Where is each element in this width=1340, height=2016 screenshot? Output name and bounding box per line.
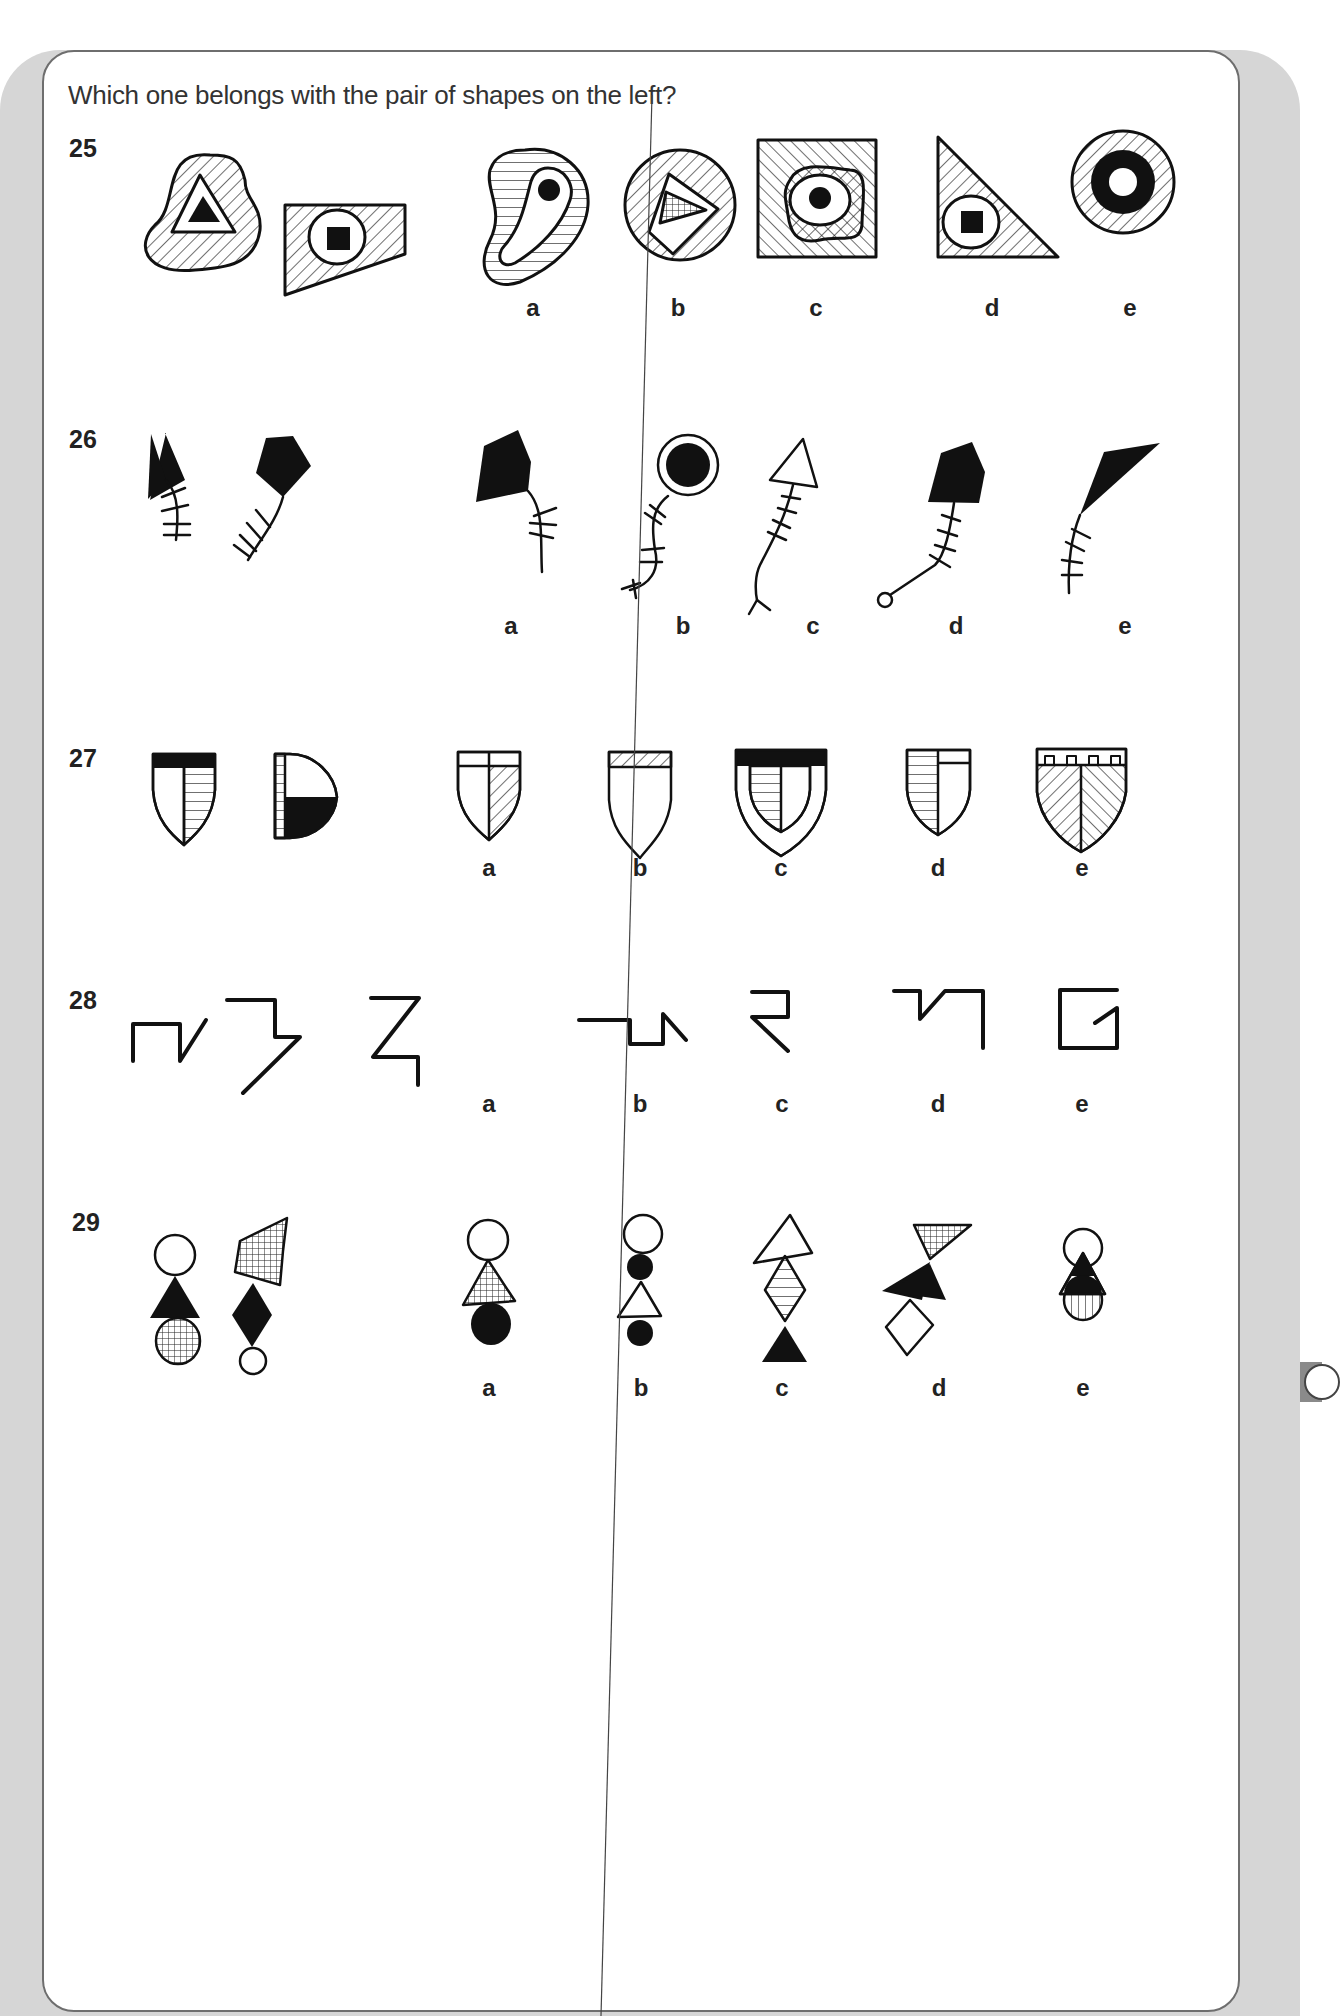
q25-option-a-figure — [484, 149, 588, 284]
q27-pair-d-shape — [275, 754, 337, 838]
q27-option-b-figure — [609, 752, 671, 858]
q29-option-a-figure — [463, 1220, 515, 1345]
q29-option-c-figure — [754, 1215, 812, 1362]
q26-option-b-figure — [622, 435, 718, 598]
q29-pair-figure-1 — [150, 1235, 200, 1364]
q26-pair-triangle — [148, 433, 190, 540]
q26-pair-pentagon — [234, 436, 311, 560]
q28-pair-figure-2 — [227, 1000, 300, 1093]
q25-option-b-figure — [625, 150, 735, 260]
q27-option-e-figure — [1037, 749, 1126, 852]
q26-option-d-figure — [878, 442, 985, 607]
q26-option-c-figure — [749, 439, 817, 614]
q25-option-c-figure — [758, 140, 876, 257]
q27-option-d-figure — [907, 750, 970, 835]
q25-option-e-figure — [1072, 131, 1174, 233]
q28-option-d-figure — [894, 991, 983, 1048]
q25-pair-trapezoid — [285, 205, 405, 295]
q27-option-a-figure — [458, 752, 520, 840]
q28-option-a-figure — [371, 998, 419, 1085]
q25-option-d-figure — [938, 137, 1058, 257]
q26-option-e-figure — [1062, 443, 1160, 593]
scan-artifact-line — [601, 95, 652, 2016]
q29-option-e-figure — [1060, 1229, 1105, 1320]
q28-pair-figure-1 — [133, 1020, 206, 1061]
q29-option-d-figure — [882, 1225, 971, 1355]
q29-option-b-figure — [618, 1215, 662, 1346]
q28-option-e-figure — [1060, 990, 1117, 1048]
q27-option-c-figure — [736, 750, 826, 856]
q28-option-b-figure — [579, 1014, 686, 1044]
q25-pair-blob — [145, 155, 260, 271]
q29-pair-figure-2 — [232, 1218, 287, 1374]
q28-option-c-figure — [752, 992, 788, 1051]
q27-pair-shield — [153, 754, 215, 845]
q26-option-a-figure — [476, 430, 556, 572]
